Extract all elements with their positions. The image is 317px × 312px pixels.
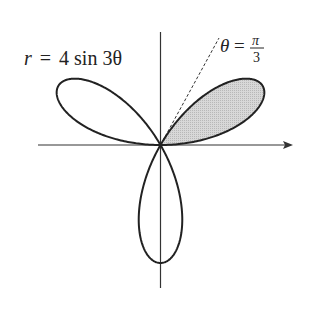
polar-rose-diagram: r = 4 sin 3θ θ = π 3 <box>0 0 317 312</box>
equals-sign: = <box>234 35 245 56</box>
equation-label: r = 4 sin 3θ <box>24 47 122 69</box>
fraction-numerator: π <box>252 33 260 48</box>
fraction-denominator: 3 <box>253 50 260 65</box>
shaded-region <box>161 79 265 145</box>
theta-label: θ <box>220 35 229 56</box>
